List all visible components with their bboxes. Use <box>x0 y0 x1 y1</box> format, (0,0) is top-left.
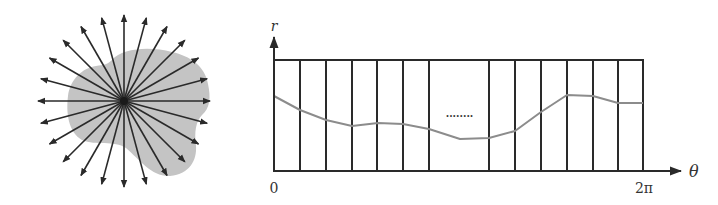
x-tick-two-pi: 2π <box>635 180 653 196</box>
polar-unwrapped-chart: ........ r θ 0 2π <box>270 18 699 196</box>
figure-canvas: ........ r θ 0 2π <box>0 0 718 205</box>
x-tick-zero: 0 <box>270 180 279 196</box>
y-axis-label: r <box>271 18 279 34</box>
x-axis-label: θ <box>689 162 699 181</box>
center-point <box>120 97 128 105</box>
ellipsis-gap: ........ <box>445 104 473 120</box>
star-region-diagram <box>38 15 210 187</box>
